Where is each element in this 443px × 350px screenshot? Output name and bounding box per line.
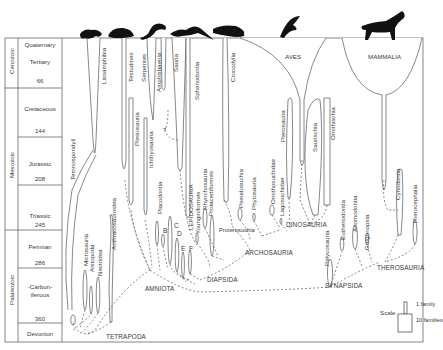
- period-tertiary: Tertiary: [18, 58, 62, 65]
- period-carboniferous: -Carbon- iferous: [18, 283, 62, 299]
- period-quaternary: Quaternary: [18, 41, 62, 48]
- taxon-crocodylia: Crocodylia: [230, 53, 236, 82]
- scale-label: Scale: [380, 310, 395, 316]
- uncertain-marker: ?: [163, 128, 166, 134]
- taxon-pseudosuchia: Pseudosuchia: [238, 169, 244, 208]
- turtle-silhouette: [108, 28, 134, 38]
- snake-silhouette: [140, 24, 166, 40]
- taxon-lissamphibia: Lissamphibia: [101, 48, 107, 84]
- period-jurassic: Jurassic: [18, 160, 62, 167]
- age-245: 245: [18, 222, 62, 228]
- era-label-mesozoic: Mesozoic: [8, 152, 15, 178]
- age-286: 286: [18, 260, 62, 266]
- taxon-anomodontia: Anomodontia: [352, 196, 358, 232]
- animal-silhouettes: [80, 11, 405, 40]
- taxon-prolacertiformes: Prolacertiformes: [208, 171, 214, 216]
- taxon-gorgonopsia: Gorgonopsia: [364, 215, 370, 250]
- era-label-palaeozoic: Palaeozoic: [8, 275, 15, 305]
- group-label-aves: AVES: [285, 54, 301, 60]
- taxon-lagosuchidae: Lagosuchidae: [279, 177, 285, 216]
- taxon-saurischia: Saurischia: [312, 123, 318, 152]
- taxon-anthracosauroidea: Anthracosauroidea: [111, 198, 117, 250]
- age-66: 66: [18, 78, 62, 84]
- taxon-proterosuchia: Proterosuchia: [219, 228, 255, 234]
- clade-tetrapoda: TETRAPODA: [106, 333, 146, 340]
- period-triassic: Triassic: [18, 212, 62, 219]
- taxon-phytosauria: Phytosauria: [251, 177, 257, 210]
- taxon-testudines: Testudines: [128, 52, 134, 82]
- taxon-ornithosuchidae: Ornithosuchidae: [270, 159, 276, 204]
- bird-silhouette: [280, 16, 300, 38]
- clade-archosauria: ARCHOSAURIA: [245, 249, 293, 256]
- taxon-nectridea: Nectridea: [97, 250, 103, 276]
- taxon-pterosauria: Pterosauria: [280, 110, 286, 142]
- crocodile-silhouette: [213, 25, 244, 37]
- taxon-ichthyosauria: Ichthyosauria: [148, 131, 154, 168]
- taxon-therocephalia: Therocephalia: [412, 185, 418, 224]
- taxon-plesiosauria: Plesiosauria: [134, 112, 140, 146]
- scale-one-family: 1 family: [416, 302, 435, 308]
- age-208: 208: [18, 176, 62, 182]
- taxon-placodontia: Placodontia: [157, 182, 163, 214]
- lineage-letter-b: B: [163, 227, 167, 234]
- taxon-cynodontia: Cynodontia: [395, 169, 401, 200]
- taxon-amphisbaenia: Amphisbaenia: [156, 53, 162, 92]
- age-360: 360: [18, 316, 62, 322]
- lineage-letter-f: F: [189, 245, 193, 252]
- taxon-pelycosauria: Pelycosauria: [324, 231, 330, 266]
- lineage-letter-c: C: [174, 222, 179, 229]
- clade-diapsida: DIAPSIDA: [207, 276, 238, 283]
- clade-dinosauria: DINOSAURIA: [286, 221, 327, 228]
- scale-legend-shapes: [398, 302, 412, 332]
- clade-amniota: AMNIOTA: [145, 285, 174, 292]
- taxon-ornithischia: Ornithischia: [330, 107, 336, 140]
- period-cretaceous: Cretaceous: [18, 105, 62, 112]
- taxon-aistopoda: Aistopoda: [89, 244, 95, 272]
- frog-silhouette: [80, 30, 102, 39]
- lineage-letter-e: E: [181, 245, 185, 252]
- period-permian: Permian: [18, 243, 62, 250]
- taxon-temnospondyli: Temnospondyli: [70, 139, 76, 180]
- taxon-sauria: Sauria: [173, 54, 179, 72]
- clade-therosauria: THEROSAURIA: [377, 264, 424, 271]
- clade-synapsida: SYNAPSIDA: [325, 282, 362, 289]
- taxon-eutheriodontia: Eutheriodontia: [340, 200, 346, 240]
- period-devonian: Devonion: [18, 330, 62, 337]
- horse-silhouette: [362, 11, 405, 40]
- age-144: 144: [18, 128, 62, 134]
- scale-ten-families: 10 families: [416, 318, 443, 324]
- era-label-cenozoic: Cenozoic: [8, 48, 15, 74]
- lineage-letter-d: D: [177, 230, 182, 237]
- taxon-sphenodontia: Sphenodontia: [194, 62, 200, 100]
- taxon-serpentes: Serpentes: [141, 54, 147, 82]
- group-label-mammalia: MAMMALIA: [368, 54, 401, 60]
